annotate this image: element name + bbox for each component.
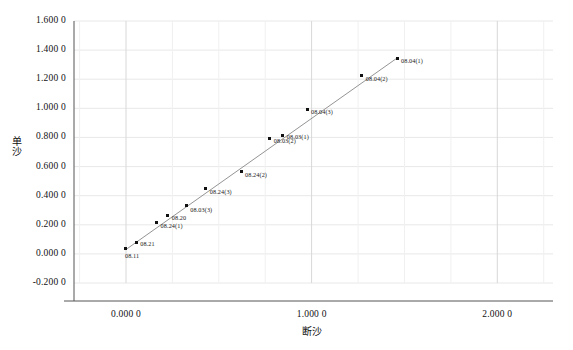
data-point-marker (166, 214, 169, 217)
y-axis-tick-label: 0.400 0 (6, 190, 66, 200)
chart-canvas (0, 0, 573, 350)
data-point-marker (396, 57, 399, 60)
data-point-label: 08.03(3) (190, 206, 212, 213)
data-point-marker (268, 137, 271, 140)
data-point-label: 08.04(1) (401, 57, 423, 64)
data-point-label: 08.03(1) (287, 133, 309, 140)
data-point-marker (135, 241, 138, 244)
y-axis-tick-label: 1.400 0 (6, 44, 66, 54)
data-point-marker (204, 187, 207, 190)
data-point-label: 08.24(2) (245, 171, 267, 178)
chart-container: 1.600 01.400 01.200 01.000 00.800 00.600… (0, 0, 573, 350)
data-point-marker (124, 247, 127, 250)
x-axis-title: 断沙 (272, 323, 352, 338)
x-axis-tick-label: 1.000 0 (277, 309, 347, 319)
data-point-marker (185, 204, 188, 207)
data-point-marker (240, 170, 243, 173)
y-axis-tick-label: 1.200 0 (6, 73, 66, 83)
y-axis-tick-label: 0.200 0 (6, 219, 66, 229)
data-point-label: 08.24(1) (161, 222, 183, 229)
y-axis-tick-label: 1.000 0 (6, 102, 66, 112)
y-axis-title: 单沙 (8, 136, 23, 156)
x-axis-tick-label: 0.000 0 (91, 309, 161, 319)
data-point-label: 08.24(3) (210, 188, 232, 195)
data-point-label: 08.11 (125, 252, 139, 259)
data-point-label: 08.04(2) (366, 75, 388, 82)
data-point-marker (306, 108, 309, 111)
y-axis-tick-label: 1.600 0 (6, 15, 66, 25)
y-axis-tick-label: 0.000 0 (6, 248, 66, 258)
data-point-marker (155, 221, 158, 224)
y-axis-tick-label: 0.600 0 (6, 161, 66, 171)
data-point-marker (360, 74, 363, 77)
data-point-label: 08.04(3) (311, 108, 333, 115)
x-axis-tick-label: 2.000 0 (462, 309, 532, 319)
y-axis-tick-label: -0.200 0 (6, 277, 66, 287)
axis-lines (64, 21, 553, 301)
data-point-label: 08.21 (140, 240, 154, 247)
data-point-label: 08.20 (172, 214, 186, 221)
